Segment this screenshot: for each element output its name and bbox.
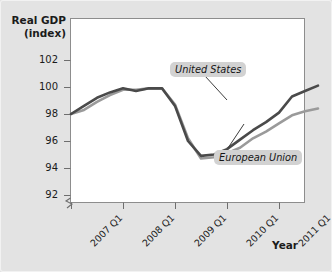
plot-area <box>71 19 305 203</box>
y-axis-title: Real GDP (index) <box>8 14 66 40</box>
chart-figure: Real GDP (index) Year 102 100 98 96 94 9… <box>0 0 332 272</box>
y-tick-label-92: 92 <box>30 189 58 200</box>
x-axis-title: Year <box>272 239 298 252</box>
series-label-european-union: European Union <box>214 150 302 165</box>
x-axis-ticks <box>72 203 280 210</box>
y-axis-ticks <box>64 61 71 196</box>
series-label-united-states: United States <box>170 62 246 77</box>
y-tick-label-102: 102 <box>30 54 58 65</box>
y-tick-label-96: 96 <box>30 135 58 146</box>
y-tick-label-94: 94 <box>30 162 58 173</box>
y-tick-label-100: 100 <box>30 81 58 92</box>
y-tick-label-98: 98 <box>30 108 58 119</box>
